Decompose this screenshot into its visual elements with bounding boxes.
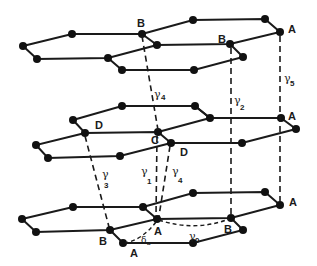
gamma4-top-label: γ 4 [154,88,166,102]
svg-text:γ: γ [154,88,161,101]
gamma2-label: γ 2 [234,94,245,112]
atom-label-top-a: A [288,23,296,35]
gamma5-label: γ 5 [284,72,295,88]
atom-label-bot-a-center: A [154,225,162,237]
svg-text:0: 0 [195,236,200,245]
atom-label-mid-c: C [151,134,159,146]
gamma0-label: γ 0 [189,230,200,245]
top-layer [19,15,284,74]
svg-text:4: 4 [161,93,166,102]
atom-label-mid-d2: D [180,146,188,158]
gamma4-mid-label: γ 4 [172,165,183,185]
svg-text:3: 3 [104,181,109,190]
atom-label-top-b1: B [137,17,145,29]
svg-text:δ: δ [141,235,146,245]
delta-label: δ a [141,235,151,246]
coupling-labels: γ 4 γ 2 γ 5 γ 3 γ 1 γ 4 γ 0 δ a [102,72,295,246]
atom-label-bot-a-right: A [289,196,297,208]
bottom-layer [18,188,284,247]
svg-text:γ: γ [102,168,109,181]
middle-layer [32,102,300,162]
svg-text:2: 2 [240,103,245,112]
svg-text:1: 1 [147,177,152,186]
atom-label-bot-b-right: B [224,223,232,235]
gamma1-label: γ 1 [141,165,152,186]
atom-label-top-b2: B [218,33,226,45]
svg-text:5: 5 [290,79,295,88]
atom-label-bot-a-bottom: A [130,247,138,259]
gamma3-label: γ 3 [102,168,109,190]
atom-label-mid-a: A [288,110,296,122]
svg-text:4: 4 [178,176,183,185]
atom-label-bot-b-left: B [99,235,107,247]
atom-label-mid-d: D [95,119,103,131]
graphite-structure-diagram: B B A D C D A A A B B A γ 4 γ 2 γ 5 γ 3 … [0,0,317,266]
